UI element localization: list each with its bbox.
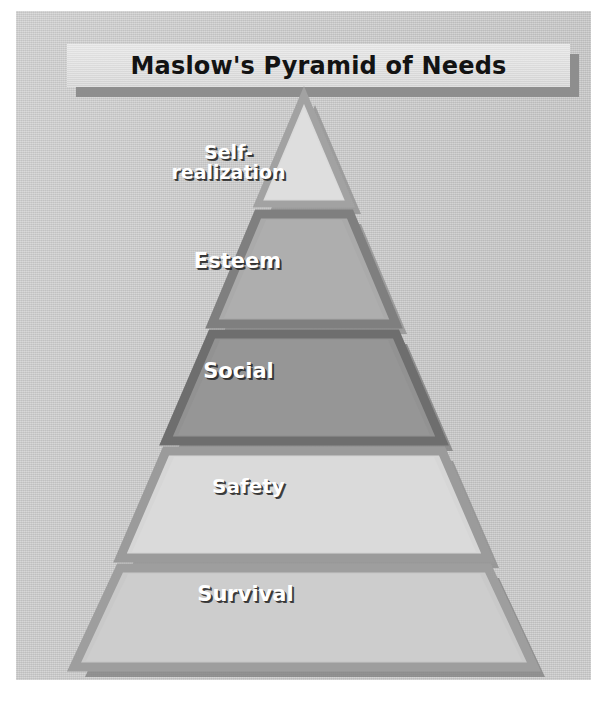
maslow-pyramid: Self- realization Esteem Social Safety S… [16,11,591,680]
pyramid-level-social[interactable] [166,334,442,441]
pyramid-level-esteem[interactable] [212,214,396,324]
social-face [178,340,430,435]
pyramid-level-self-realization[interactable] [258,95,350,204]
pyramid-level-survival[interactable] [74,568,534,667]
slide-canvas: Maslow's Pyramid of Needs [0,0,609,703]
pyramid-level-safety[interactable] [120,451,488,558]
safety-face [132,457,476,552]
slide-panel: Maslow's Pyramid of Needs [16,11,591,680]
pyramid-svg [16,11,591,680]
survival-face [86,574,522,661]
